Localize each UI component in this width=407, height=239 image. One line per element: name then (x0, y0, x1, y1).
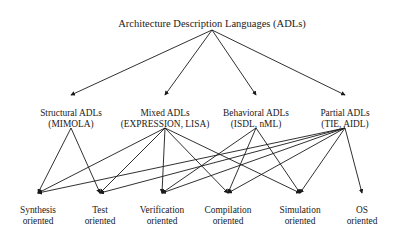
edge-mixed-to-synthesis (38, 128, 165, 193)
edge-mixed-to-compilation (165, 128, 228, 193)
edge-adls-to-structural (71, 30, 212, 95)
edge-structural-to-synthesis (38, 128, 71, 193)
edge-adls-to-mixed (165, 30, 212, 95)
edge-partial-to-os (345, 128, 362, 193)
edge-partial-to-compilation (228, 128, 345, 193)
edge-adls-to-partial (212, 30, 345, 95)
category-edge-group (38, 128, 362, 193)
root-edge-group (71, 30, 345, 95)
adl-taxonomy-diagram: Architecture Description Languages (ADLs… (0, 0, 407, 239)
edge-adls-to-behavioral (212, 30, 256, 95)
edge-layer (0, 0, 407, 239)
edge-mixed-to-verification (162, 128, 165, 193)
edge-partial-to-synthesis (38, 128, 345, 193)
edge-mixed-to-test (100, 128, 165, 193)
edge-partial-to-test (100, 128, 345, 193)
edge-behavioral-to-simulation (256, 128, 300, 193)
